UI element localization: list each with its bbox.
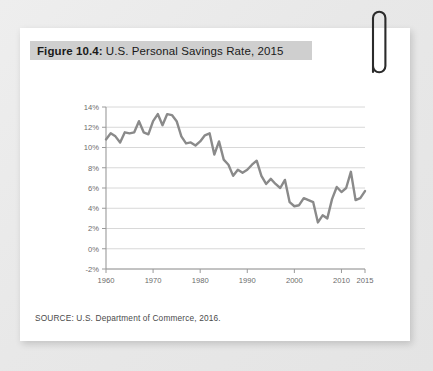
x-tick-label: 1990 [239, 276, 256, 285]
x-tick-label: 2010 [333, 276, 350, 285]
x-axis-tick-labels: 1960197019801990200020102015 [98, 276, 374, 285]
grid-lines [106, 107, 365, 269]
y-tick-label: 14% [84, 103, 99, 112]
x-tick-label: 1980 [192, 276, 209, 285]
chart-plot-area: 14%12%10%8%6%4%2%0%-2% 19601970198019902… [20, 64, 410, 299]
y-tick-label: 10% [84, 143, 99, 152]
x-tick-label: 2000 [286, 276, 303, 285]
y-tick-label: 0% [88, 245, 99, 254]
y-tick-label: -2% [85, 265, 99, 274]
x-tick-label: 1960 [98, 276, 115, 285]
savings-rate-line-chart: 14%12%10%8%6%4%2%0%-2% 19601970198019902… [20, 64, 410, 299]
y-axis-tick-labels: 14%12%10%8%6%4%2%0%-2% [84, 103, 99, 274]
y-axis-tick-marks [102, 107, 106, 269]
y-tick-label: 4% [88, 204, 99, 213]
x-axis-tick-marks [106, 269, 365, 273]
figure-caption-label: U.S. Personal Savings Rate, 2015 [106, 45, 284, 57]
x-tick-label: 1970 [145, 276, 162, 285]
x-tick-label: 2015 [357, 276, 374, 285]
figure-source-note: SOURCE: U.S. Department of Commerce, 201… [35, 313, 221, 323]
figure-number-label: Figure 10.4: [37, 45, 103, 57]
y-tick-label: 2% [88, 224, 99, 233]
figure-card: Figure 10.4: U.S. Personal Savings Rate,… [20, 28, 410, 341]
savings-rate-series-line [106, 114, 365, 222]
y-tick-label: 6% [88, 184, 99, 193]
figure-title-bar: Figure 10.4: U.S. Personal Savings Rate,… [30, 41, 312, 60]
y-tick-label: 8% [88, 164, 99, 173]
y-tick-label: 12% [84, 123, 99, 132]
